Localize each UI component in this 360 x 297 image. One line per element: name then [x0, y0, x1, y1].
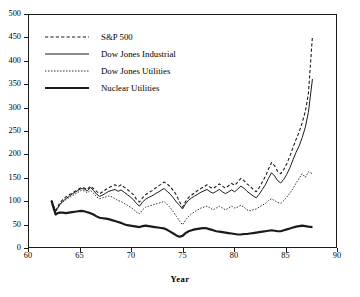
x-tick-label: 70 — [127, 252, 135, 260]
legend-line-sample — [44, 32, 90, 42]
series-line — [52, 79, 313, 212]
legend-line-sample — [44, 49, 90, 59]
chart-legend: S&P 500Dow Jones IndustrialDow Jones Uti… — [44, 28, 214, 96]
legend-item: Dow Jones Industrial — [44, 45, 214, 62]
x-tick-label: 80 — [230, 252, 238, 260]
series-line — [52, 201, 313, 237]
legend-label: Dow Jones Industrial — [101, 49, 176, 59]
series-line — [52, 172, 313, 225]
x-tick-label: 85 — [281, 252, 289, 260]
legend-item: Dow Jones Utilities — [44, 62, 214, 79]
legend-item: Nuclear Utilities — [44, 79, 214, 96]
x-axis-title: Year — [0, 274, 360, 284]
x-tick-label: 60 — [24, 252, 32, 260]
legend-line-sample — [44, 83, 90, 93]
legend-label: Dow Jones Utilities — [101, 66, 170, 76]
legend-label: S&P 500 — [101, 32, 133, 42]
legend-label: Nuclear Utilities — [101, 83, 159, 93]
x-tick-label: 90 — [333, 252, 341, 260]
legend-line-sample — [44, 66, 90, 76]
x-tick-label: 65 — [75, 252, 83, 260]
x-tick-label: 75 — [178, 252, 186, 260]
legend-item: S&P 500 — [44, 28, 214, 45]
chart-figure: 050100150200250300350400450500 606570758… — [0, 0, 360, 297]
